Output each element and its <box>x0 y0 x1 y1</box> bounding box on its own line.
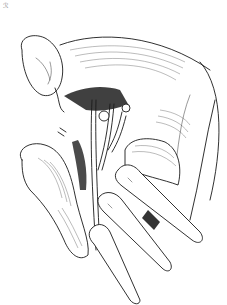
corner-mark: ℛ <box>3 2 9 10</box>
illustration-drawing <box>0 0 227 305</box>
retracted-organ <box>21 36 64 112</box>
retracting-fingers <box>89 165 202 304</box>
surgical-illustration: ℛ <box>0 0 227 305</box>
